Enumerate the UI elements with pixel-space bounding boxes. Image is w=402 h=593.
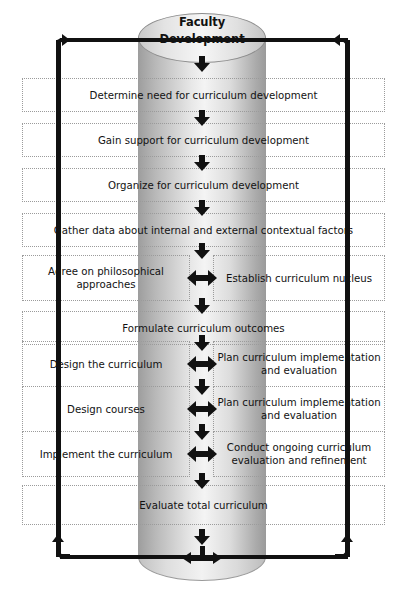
process-step-box[interactable]: Evaluate total curriculum (22, 485, 385, 525)
connector-arrowhead-left-icon (182, 552, 191, 564)
process-step-label: Determine need for curriculum developmen… (90, 89, 318, 102)
process-step-label-right: Plan curriculum implementation and evalu… (217, 396, 381, 422)
bi-arrowhead-right-icon (208, 401, 217, 417)
process-step-box[interactable]: Gain support for curriculum development (22, 123, 385, 157)
feedback-loop-left-line (56, 40, 61, 557)
bi-arrowhead-right-icon (208, 446, 217, 462)
bottom-split-connector (182, 546, 222, 568)
process-step-label-right: Conduct ongoing curriculum evaluation an… (217, 441, 381, 467)
process-step-box[interactable]: Determine need for curriculum developmen… (22, 78, 385, 112)
curriculum-development-diagram: Faculty Development Determine need for c… (0, 0, 402, 593)
feedback-loop-right-line (345, 40, 350, 557)
process-step-label-right: Plan curriculum implementation and evalu… (217, 351, 381, 377)
process-step-box-left[interactable]: Design courses (22, 386, 190, 432)
process-step-label-left: Design the curriculum (50, 358, 163, 371)
bi-arrowhead-left-icon (187, 356, 196, 372)
bi-arrowhead-right-icon (208, 356, 217, 372)
connector-bar (190, 556, 214, 561)
process-step-box-right[interactable]: Plan curriculum implementation and evalu… (213, 386, 385, 432)
bidirectional-arrow-icon (187, 401, 217, 417)
cylinder-label-line2: Development (138, 31, 266, 48)
process-step-box-left[interactable]: Design the curriculum (22, 341, 190, 387)
down-arrow-icon (194, 56, 210, 72)
process-step-label: Organize for curriculum development (108, 179, 299, 192)
cylinder-label: Faculty Development (138, 14, 266, 48)
process-step-box-left[interactable]: Agree on philosophical approaches (22, 255, 190, 301)
process-step-box[interactable]: Gather data about internal and external … (22, 213, 385, 247)
bidirectional-arrow-icon (187, 270, 217, 286)
process-step-label: Gain support for curriculum development (98, 134, 309, 147)
process-step-label: Evaluate total curriculum (139, 499, 268, 512)
process-step-label: Gather data about internal and external … (54, 224, 353, 237)
process-step-box[interactable]: Organize for curriculum development (22, 168, 385, 202)
bi-arrowhead-left-icon (187, 446, 196, 462)
process-step-box-right[interactable]: Establish curriculum nucleus (213, 255, 385, 301)
feedback-arrowhead-bottom-right-icon (341, 534, 353, 542)
cylinder-label-line1: Faculty (138, 14, 266, 31)
down-arrow-icon (194, 155, 210, 171)
process-step-box-right[interactable]: Plan curriculum implementation and evalu… (213, 341, 385, 387)
feedback-arrowhead-bottom-left-icon (52, 534, 64, 542)
down-arrow-icon (194, 200, 210, 216)
feedback-arrowhead-top-right-icon (332, 34, 340, 46)
down-arrow-icon (194, 379, 210, 395)
feedback-arrowhead-top-left-icon (62, 34, 70, 46)
bi-arrowhead-left-icon (187, 270, 196, 286)
process-step-label: Formulate curriculum outcomes (122, 322, 284, 335)
process-step-label-left: Design courses (67, 403, 145, 416)
connector-arrowhead-right-icon (213, 552, 222, 564)
bidirectional-arrow-icon (187, 356, 217, 372)
down-arrow-icon (194, 529, 210, 545)
bidirectional-arrow-icon (187, 446, 217, 462)
down-arrow-icon (194, 424, 210, 440)
process-step-label-right: Establish curriculum nucleus (226, 272, 372, 285)
feedback-corner-bottom-right (335, 544, 349, 558)
down-arrow-icon (194, 298, 210, 314)
process-step-box-right[interactable]: Conduct ongoing curriculum evaluation an… (213, 431, 385, 477)
down-arrow-icon (194, 473, 210, 489)
down-arrow-icon (194, 110, 210, 126)
process-step-box-left[interactable]: Implement the curriculum (22, 431, 190, 477)
down-arrow-icon (194, 335, 210, 351)
bi-arrowhead-right-icon (208, 270, 217, 286)
process-step-label-left: Agree on philosophical approaches (26, 265, 186, 291)
feedback-corner-bottom-left (56, 544, 70, 558)
down-arrow-icon (194, 243, 210, 259)
bi-arrowhead-left-icon (187, 401, 196, 417)
